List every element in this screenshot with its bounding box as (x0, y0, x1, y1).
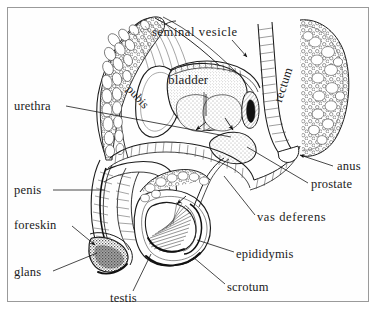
label-vas-deferens: vas deferens (257, 211, 326, 224)
leader-glans (53, 253, 97, 271)
leader-seminal-vesicle (232, 40, 247, 57)
label-seminal-vesicle: seminal vesicle (152, 26, 238, 39)
label-urethra: urethra (14, 100, 51, 113)
label-anus: anus (337, 160, 361, 173)
label-prostate: prostate (311, 178, 352, 191)
label-scrotum: scrotum (227, 281, 269, 294)
label-epididymis: epididymis (236, 248, 294, 261)
label-bladder: bladder (168, 73, 208, 86)
leader-anus (300, 155, 333, 166)
label-testis: testis (110, 292, 137, 305)
leader-vas-deferens (224, 176, 255, 215)
leader-foreskin (72, 226, 95, 245)
leader-testis (133, 254, 151, 291)
anatomy-illustration (0, 0, 384, 318)
label-foreskin: foreskin (14, 219, 57, 232)
leader-scrotum (193, 257, 225, 284)
label-penis: penis (14, 184, 41, 197)
label-glans: glans (14, 266, 41, 279)
anatomical-figure: seminal vesicle bladder rectum pubis ure… (0, 0, 384, 318)
